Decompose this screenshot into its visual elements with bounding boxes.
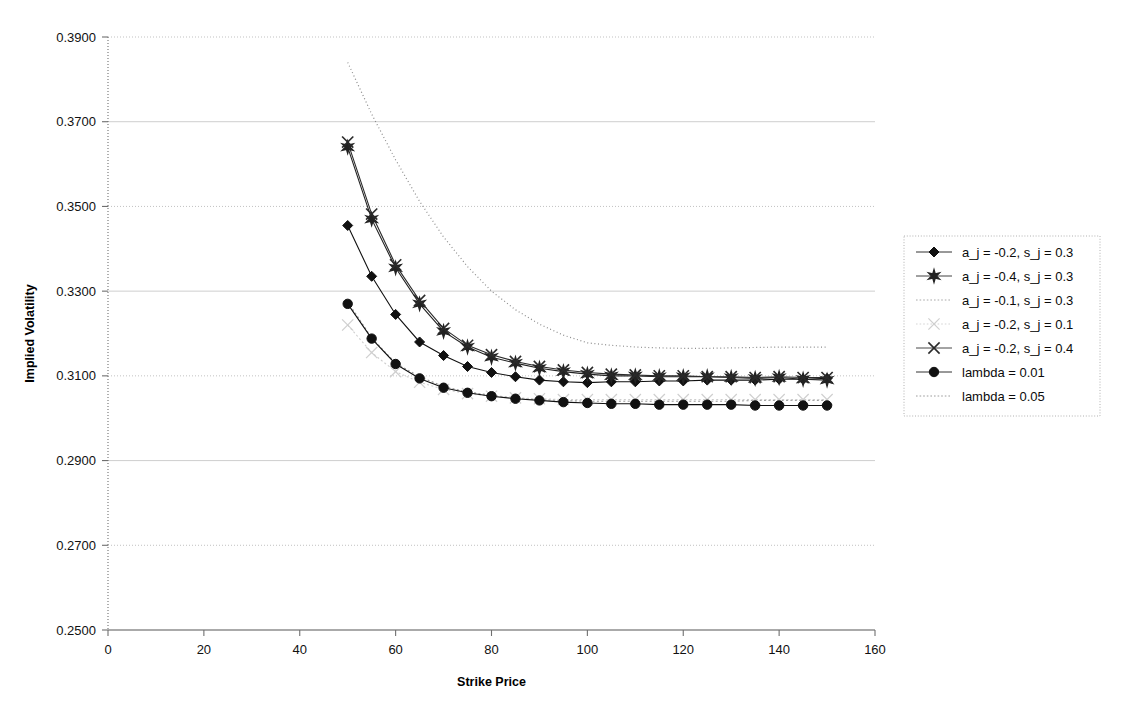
y-tick-label: 0.3100 [56, 368, 96, 383]
legend-item-label: a_j = -0.1, s_j = 0.3 [962, 293, 1073, 308]
series-3 [342, 319, 833, 405]
series-1 [342, 141, 832, 386]
chart-canvas: 0.25000.27000.29000.31000.33000.35000.37… [0, 0, 1124, 714]
y-tick-label: 0.2900 [56, 453, 96, 468]
series-4 [342, 136, 833, 383]
x-tick-label: 160 [864, 642, 886, 657]
data-marker-circle [607, 399, 616, 408]
data-marker-circle [367, 334, 376, 343]
legend-item-label: a_j = -0.2, s_j = 0.3 [962, 245, 1073, 260]
x-tick-label: 20 [197, 642, 211, 657]
axes [108, 37, 875, 630]
data-marker-circle [583, 398, 592, 407]
x-axis-title: Strike Price [457, 675, 526, 689]
legend-item-label: a_j = -0.2, s_j = 0.1 [962, 317, 1073, 332]
data-marker-circle [511, 394, 520, 403]
data-marker-circle [631, 399, 640, 408]
y-tick-label: 0.3700 [56, 114, 96, 129]
series-5 [343, 299, 832, 410]
legend-item-label: a_j = -0.2, s_j = 0.4 [962, 341, 1073, 356]
data-marker-circle [439, 383, 448, 392]
x-tick-label: 100 [577, 642, 599, 657]
data-marker-circle [703, 400, 712, 409]
data-marker-diamond [510, 372, 520, 382]
data-marker-circle [929, 367, 938, 376]
x-tick-label: 80 [484, 642, 498, 657]
data-marker-circle [343, 299, 352, 308]
data-marker-circle [679, 400, 688, 409]
data-marker-circle [774, 401, 783, 410]
legend-item-label: a_j = -0.4, s_j = 0.3 [962, 269, 1073, 284]
legend: a_j = -0.2, s_j = 0.3a_j = -0.4, s_j = 0… [904, 236, 1100, 416]
y-tick-label: 0.3300 [56, 284, 96, 299]
data-marker-diamond [463, 362, 473, 372]
x-tick-label: 40 [293, 642, 307, 657]
data-marker-circle [463, 388, 472, 397]
data-marker-circle [559, 397, 568, 406]
x-tick-label: 60 [388, 642, 402, 657]
data-marker-diamond [367, 271, 377, 281]
y-tick-label: 0.2500 [56, 623, 96, 638]
series-line [348, 325, 827, 400]
data-marker-circle [655, 400, 664, 409]
series-group [342, 62, 833, 410]
x-tick-label: 120 [672, 642, 694, 657]
data-marker-diamond [343, 220, 353, 230]
data-marker-circle [391, 359, 400, 368]
x-tick-label: 0 [104, 642, 111, 657]
y-axis-title: Implied Volatility [23, 284, 37, 382]
data-marker-circle [822, 401, 831, 410]
y-axis-ticks: 0.25000.27000.29000.31000.33000.35000.37… [56, 30, 108, 638]
data-marker-circle [415, 374, 424, 383]
legend-item-label: lambda = 0.01 [962, 365, 1045, 380]
legend-item-label: lambda = 0.05 [962, 389, 1045, 404]
data-marker-diamond [439, 351, 449, 361]
gridlines [108, 37, 875, 630]
data-marker-circle [798, 401, 807, 410]
series-line [348, 304, 827, 406]
y-tick-label: 0.2700 [56, 538, 96, 553]
y-tick-label: 0.3500 [56, 199, 96, 214]
data-marker-circle [487, 391, 496, 400]
y-tick-label: 0.3900 [56, 30, 96, 45]
x-axis-ticks: 020406080100120140160 [104, 630, 885, 657]
data-marker-circle [535, 396, 544, 405]
data-marker-diamond [929, 247, 939, 257]
implied-volatility-chart: 0.25000.27000.29000.31000.33000.35000.37… [0, 0, 1124, 714]
data-marker-circle [750, 401, 759, 410]
x-tick-label: 140 [768, 642, 790, 657]
data-marker-circle [726, 400, 735, 409]
